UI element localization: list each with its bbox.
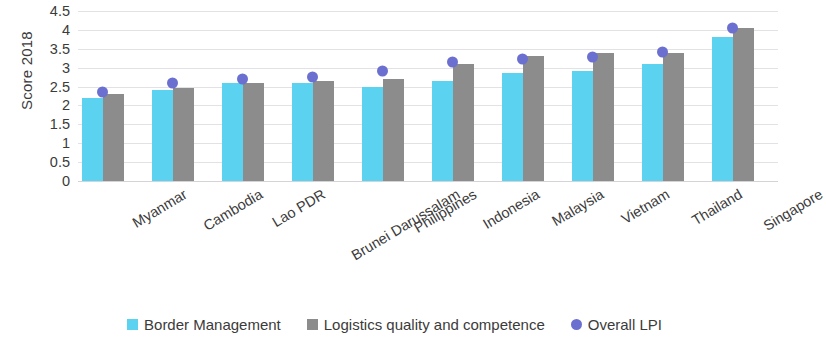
overall-lpi-point — [237, 74, 248, 85]
y-axis-tick-label: 1.5 — [50, 116, 70, 132]
x-axis-line — [78, 181, 778, 182]
y-axis-tick-labels: 4.543.532.521.510.50 — [26, 0, 70, 200]
bar-border-management — [82, 98, 103, 181]
plot-area — [78, 11, 778, 181]
bar-logistics-quality — [313, 81, 334, 181]
y-axis-tick-label: 4 — [62, 22, 70, 38]
bar-logistics-quality — [103, 94, 124, 181]
bar-group — [78, 11, 148, 181]
legend-item[interactable]: Logistics quality and competence — [307, 316, 545, 333]
x-axis-category-label: Indonesia — [480, 186, 542, 232]
legend-label: Border Management — [144, 316, 281, 333]
y-axis-tick-label: 2.5 — [50, 79, 70, 95]
y-axis-tick-label: 3.5 — [50, 41, 70, 57]
bar-logistics-quality — [453, 64, 474, 181]
y-axis-tick-label: 0.5 — [50, 154, 70, 170]
bar-logistics-quality — [523, 56, 544, 181]
bar-group — [218, 11, 288, 181]
overall-lpi-point — [307, 72, 318, 83]
overall-lpi-point — [587, 52, 598, 63]
bar-border-management — [712, 37, 733, 181]
overall-lpi-point — [97, 87, 108, 98]
bar-group — [428, 11, 498, 181]
bar-border-management — [572, 71, 593, 181]
bar-group — [708, 11, 778, 181]
bar-group — [358, 11, 428, 181]
overall-lpi-point — [727, 23, 738, 34]
legend-circle-icon — [571, 319, 582, 330]
legend-item[interactable]: Border Management — [127, 316, 281, 333]
overall-lpi-point — [517, 54, 528, 65]
bar-logistics-quality — [663, 53, 684, 181]
x-axis-category-label: Brunei Darussalam — [349, 186, 463, 263]
x-axis-category-label: Singapore — [761, 186, 826, 234]
x-axis-category-label: Malaysia — [550, 186, 607, 229]
x-axis-category-label: Myanmar — [130, 186, 190, 231]
legend-label: Overall LPI — [588, 316, 662, 333]
legend-label: Logistics quality and competence — [324, 316, 545, 333]
bar-logistics-quality — [243, 83, 264, 181]
bar-border-management — [362, 87, 383, 181]
bar-logistics-quality — [173, 88, 194, 181]
x-axis-category-label: Vietnam — [619, 186, 673, 227]
x-axis-category-label: Thailand — [689, 186, 745, 228]
legend-square-icon — [127, 319, 138, 330]
y-axis-tick-label: 3 — [62, 60, 70, 76]
x-axis-category-labels: MyanmarCambodiaLao PDRBrunei DarussalamP… — [78, 186, 778, 276]
bar-group — [148, 11, 218, 181]
bar-group — [638, 11, 708, 181]
bar-group — [498, 11, 568, 181]
overall-lpi-point — [657, 47, 668, 58]
bar-border-management — [642, 64, 663, 181]
legend-square-icon — [307, 319, 318, 330]
chart-legend: Border ManagementLogistics quality and c… — [0, 316, 789, 333]
legend-item[interactable]: Overall LPI — [571, 316, 662, 333]
y-axis-tick-label: 1 — [62, 135, 70, 151]
x-axis-category-label: Lao PDR — [270, 186, 329, 230]
bar-group — [568, 11, 638, 181]
bar-border-management — [432, 81, 453, 181]
bar-logistics-quality — [733, 28, 754, 181]
y-axis-tick-label: 0 — [62, 173, 70, 189]
x-axis-category-label: Cambodia — [201, 186, 266, 234]
bar-logistics-quality — [593, 53, 614, 181]
overall-lpi-point — [377, 66, 388, 77]
y-axis-tick-label: 4.5 — [50, 3, 70, 19]
overall-lpi-point — [447, 57, 458, 68]
y-axis-tick-label: 2 — [62, 97, 70, 113]
overall-lpi-point — [167, 77, 178, 88]
bar-border-management — [502, 73, 523, 181]
bar-border-management — [222, 83, 243, 181]
bar-border-management — [152, 90, 173, 181]
bar-border-management — [292, 83, 313, 181]
bar-group — [288, 11, 358, 181]
bar-logistics-quality — [383, 79, 404, 181]
